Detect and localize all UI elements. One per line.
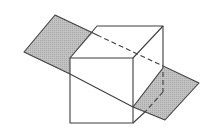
cube-bottom-right-edge [133, 111, 146, 123]
plane-left-region [24, 15, 93, 74]
plane-top-edge-segment [93, 33, 97, 35]
cube-plane-diagram [0, 0, 213, 138]
plane-front-cross-line [70, 74, 133, 107]
hidden-plane-edge [97, 35, 163, 66]
